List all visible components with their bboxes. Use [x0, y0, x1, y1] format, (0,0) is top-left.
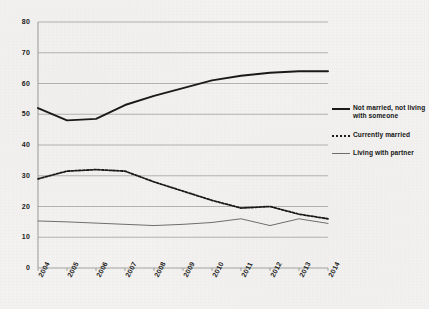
legend-item: Not married, not living with someone [332, 104, 428, 121]
legend-item: Living with partner [332, 149, 428, 157]
chart-legend: Not married, not living with someone Cur… [332, 104, 428, 168]
legend-item-label: Not married, not living with someone [353, 104, 428, 121]
y-axis-tick-label: 0 [6, 264, 30, 271]
legend-swatch-solid-thick-icon [332, 108, 350, 110]
y-axis-tick-label: 60 [6, 80, 30, 87]
series-line-0 [38, 71, 328, 120]
legend-swatch-dashed-icon [332, 135, 350, 137]
legend-item-label: Living with partner [353, 149, 414, 157]
legend-item: Currently married [332, 131, 428, 139]
y-axis-tick-label: 80 [6, 18, 30, 25]
series-line-1 [38, 170, 328, 219]
series-line-2 [38, 219, 328, 226]
y-axis-tick-label: 70 [6, 49, 30, 56]
y-axis-tick-label: 50 [6, 110, 30, 117]
y-axis-tick-label: 30 [6, 172, 30, 179]
line-chart: 01020304050607080 2004200520062007200820… [0, 0, 429, 309]
y-axis-tick-label: 20 [6, 203, 30, 210]
legend-swatch-solid-thin-icon [332, 153, 350, 154]
legend-item-label: Currently married [353, 131, 410, 139]
y-axis-tick-label: 10 [6, 233, 30, 240]
y-axis-tick-label: 40 [6, 141, 30, 148]
